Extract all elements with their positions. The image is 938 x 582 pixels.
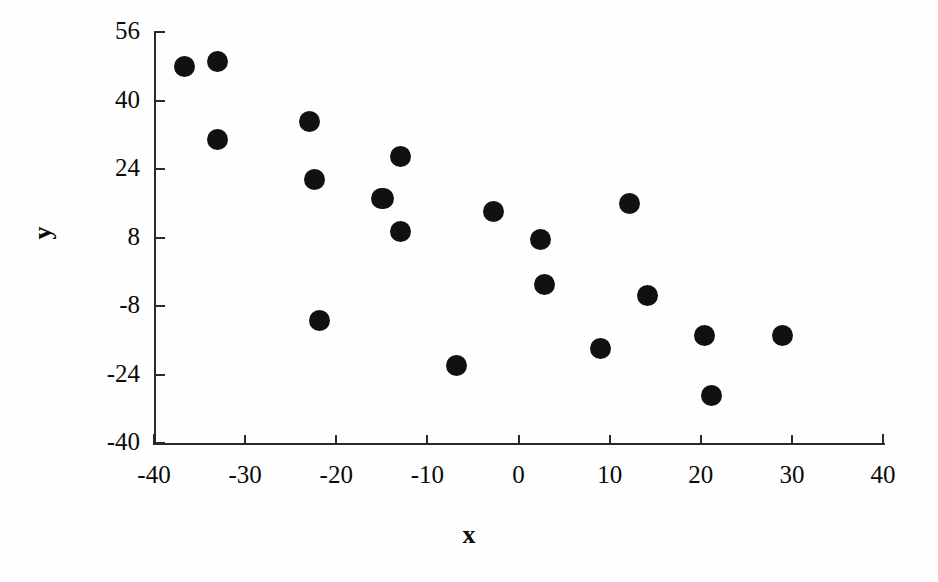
y-tick-label-text: 24 (115, 155, 140, 180)
plot-area (154, 32, 883, 443)
scatter-plot-figure: 5640248-8-24-40 -40-30-20-10010203040 y … (0, 0, 938, 582)
x-tick-mark (335, 435, 337, 444)
x-tick-mark (700, 435, 702, 444)
y-tick-mark (154, 31, 165, 33)
x-tick-mark (791, 435, 793, 444)
x-tick-label-text: 30 (779, 462, 804, 487)
x-tick-mark (153, 434, 155, 445)
y-tick-label-text: -40 (107, 429, 140, 454)
y-tick-label-text: 56 (115, 18, 140, 43)
y-tick-mark (156, 168, 165, 170)
data-point (390, 221, 411, 242)
y-axis-title: y (28, 227, 58, 240)
y-tick-mark (156, 237, 165, 239)
data-point (304, 169, 325, 190)
data-point (534, 274, 555, 295)
x-tick-label-text: -20 (320, 462, 353, 487)
x-tick-mark (518, 435, 520, 444)
y-tick-label-text: -24 (107, 361, 140, 386)
x-tick-label-text: -40 (137, 462, 170, 487)
x-tick-label-text: 40 (871, 462, 896, 487)
data-point (619, 193, 640, 214)
y-tick-mark (156, 305, 165, 307)
x-tick-label-text: 0 (512, 462, 525, 487)
y-tick-label-text: 8 (128, 224, 141, 249)
x-tick-mark (609, 435, 611, 444)
data-point (390, 146, 411, 167)
y-axis-line (154, 32, 156, 445)
x-tick-label-text: -30 (228, 462, 261, 487)
y-tick-mark (156, 100, 165, 102)
y-tick-label-text: 40 (115, 87, 140, 112)
y-tick-mark (154, 442, 165, 444)
x-tick-label-text: 10 (597, 462, 622, 487)
data-point (530, 229, 551, 250)
y-tick-label-text: -8 (119, 292, 140, 317)
x-tick-mark (882, 434, 884, 445)
y-tick-mark (156, 374, 165, 376)
x-tick-label-text: 20 (688, 462, 713, 487)
data-point (207, 129, 228, 150)
x-tick-mark (426, 435, 428, 444)
x-tick-mark (244, 435, 246, 444)
x-axis-title: x (0, 520, 938, 550)
x-tick-label-text: -10 (411, 462, 444, 487)
x-axis-line (154, 443, 885, 445)
